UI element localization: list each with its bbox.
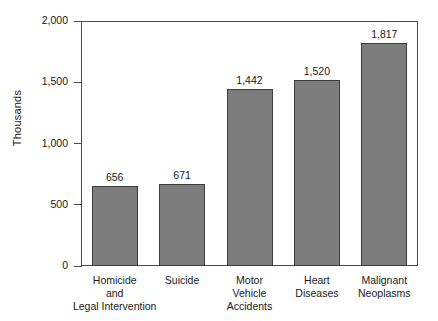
y-tick-label: 0 bbox=[62, 259, 68, 271]
bar bbox=[92, 186, 138, 266]
bar-value-label: 671 bbox=[142, 169, 222, 181]
x-label-line: Accidents bbox=[190, 300, 310, 313]
y-tick-label: 1,500 bbox=[42, 75, 68, 87]
y-tick-mark bbox=[74, 21, 82, 22]
bar bbox=[159, 184, 205, 266]
y-tick-mark bbox=[74, 82, 82, 83]
y-axis-title: Thousands bbox=[11, 73, 23, 163]
bar-value-label: 1,817 bbox=[344, 28, 424, 40]
y-tick-mark bbox=[74, 266, 82, 267]
x-label-line: Legal Intervention bbox=[55, 300, 175, 313]
bar-chart: Thousands 05001,0001,5002,000 6566711,44… bbox=[0, 0, 438, 321]
bar bbox=[294, 80, 340, 266]
y-tick-mark bbox=[74, 204, 82, 205]
bar bbox=[227, 89, 273, 266]
bar-value-label: 1,520 bbox=[277, 65, 357, 77]
y-tick-label: 500 bbox=[50, 198, 68, 210]
x-label-line: Malignant bbox=[324, 274, 438, 287]
x-label-line: Neoplasms bbox=[324, 287, 438, 300]
bar bbox=[361, 43, 407, 266]
x-axis-category-label: MalignantNeoplasms bbox=[324, 274, 438, 300]
y-tick-label: 2,000 bbox=[42, 14, 68, 26]
y-tick-mark bbox=[74, 143, 82, 144]
x-label-line: and bbox=[55, 287, 175, 300]
y-tick-label: 1,000 bbox=[42, 137, 68, 149]
